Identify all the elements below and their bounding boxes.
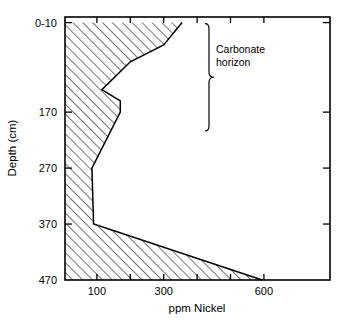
annotation-line-2: horizon [216, 56, 251, 68]
x-tick-labels: 100300600 [88, 285, 273, 297]
x-tick-label: 100 [88, 285, 106, 297]
y-tick-label: 170 [39, 106, 57, 118]
y-tick-label: 370 [39, 218, 57, 230]
x-tick-label: 600 [255, 285, 273, 297]
y-axis-title: Depth (cm) [6, 119, 18, 176]
annotation-line-1: Carbonate [216, 43, 265, 55]
x-tick-label: 300 [155, 285, 173, 297]
y-tick-label: 470 [39, 274, 57, 286]
y-tick-labels: 0-10170270370470 [35, 17, 57, 286]
y-tick-label: 0-10 [35, 17, 57, 29]
nickel-depth-profile-chart: 100300600 0-10170270370470 ppm Nickel De… [0, 0, 349, 326]
chart-figure: 100300600 0-10170270370470 ppm Nickel De… [0, 0, 349, 326]
y-tick-label: 270 [39, 162, 57, 174]
x-axis-title: ppm Nickel [169, 302, 226, 314]
carbonate-horizon-brace [205, 24, 214, 131]
